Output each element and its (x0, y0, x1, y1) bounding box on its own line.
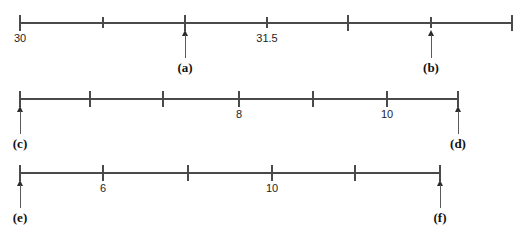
pointer-tag-label: (f) (434, 211, 447, 224)
value-pointer: (c) (13, 106, 27, 152)
axis-tick (162, 91, 164, 107)
value-pointer: (e) (13, 180, 27, 226)
arrow-stem (440, 185, 441, 208)
tick-value-label: 8 (236, 109, 242, 120)
tick-value-label: 6 (100, 183, 106, 194)
axis-tick (312, 91, 314, 107)
pointer-tag-label: (a) (177, 61, 192, 74)
arrow-stem (185, 35, 186, 58)
tick-value-label: 10 (266, 183, 278, 194)
tick-value-label: 30 (14, 33, 26, 44)
value-pointer: (f) (433, 180, 447, 226)
value-pointer: (a) (178, 30, 192, 76)
axis-tick (266, 17, 268, 28)
axis-tick (271, 165, 273, 181)
pointer-tag-label: (e) (13, 211, 27, 224)
arrow-stem (431, 35, 432, 58)
axis-line (20, 172, 440, 174)
axis-tick (187, 165, 189, 181)
axis-tick (89, 91, 91, 107)
pointer-tag-label: (b) (423, 61, 439, 74)
arrow-stem (20, 185, 21, 208)
axis-tick (430, 17, 432, 28)
axis-tick (457, 91, 459, 107)
arrow-stem (458, 111, 459, 134)
tick-value-label: 31.5 (256, 33, 277, 44)
axis-tick (238, 91, 240, 107)
axis-tick (102, 17, 104, 28)
axis-tick (439, 165, 441, 181)
axis-tick (347, 15, 349, 31)
number-line-figure: 3031.5(a)(b)810(c)(d)610(e)(f) (0, 0, 520, 235)
value-pointer: (b) (424, 30, 438, 76)
axis-tick (184, 15, 186, 31)
axis-tick (19, 15, 21, 31)
pointer-tag-label: (c) (13, 137, 27, 150)
pointer-tag-label: (d) (450, 137, 466, 150)
axis-tick (511, 15, 513, 31)
clipped-caption-remnant (186, 0, 366, 3)
axis-tick (19, 91, 21, 107)
axis-tick (386, 91, 388, 107)
value-pointer: (d) (451, 106, 465, 152)
axis-tick (102, 165, 104, 181)
tick-value-label: 10 (381, 109, 393, 120)
axis-tick (354, 165, 356, 181)
arrow-stem (20, 111, 21, 134)
axis-tick (19, 165, 21, 181)
